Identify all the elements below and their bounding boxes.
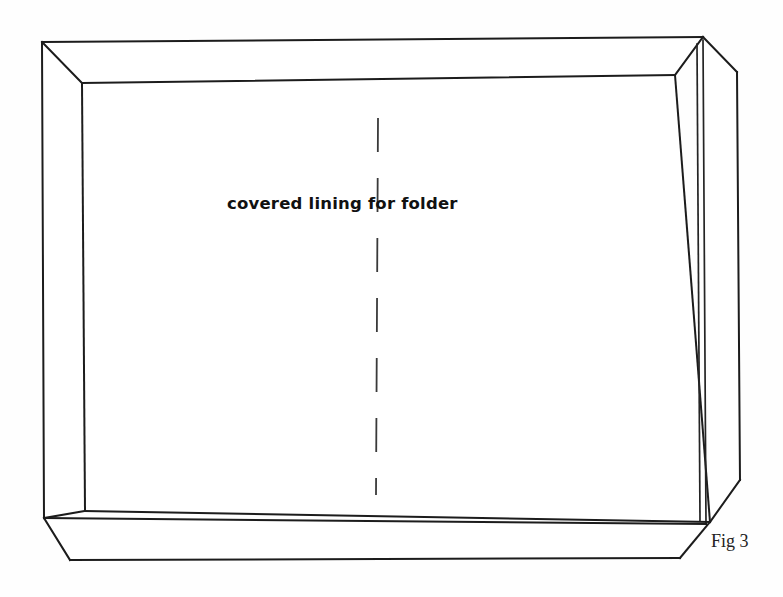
box-right-side-panel <box>703 37 740 522</box>
lining-label: covered lining for folder <box>227 194 458 213</box>
box-front-flap <box>44 518 710 560</box>
box-line-drawing <box>0 0 783 597</box>
figure-caption: Fig 3 <box>711 531 749 552</box>
box-interior-face <box>82 75 710 522</box>
figure-container: covered lining for folder Fig 3 <box>0 0 783 597</box>
box-left-wall <box>42 42 85 518</box>
